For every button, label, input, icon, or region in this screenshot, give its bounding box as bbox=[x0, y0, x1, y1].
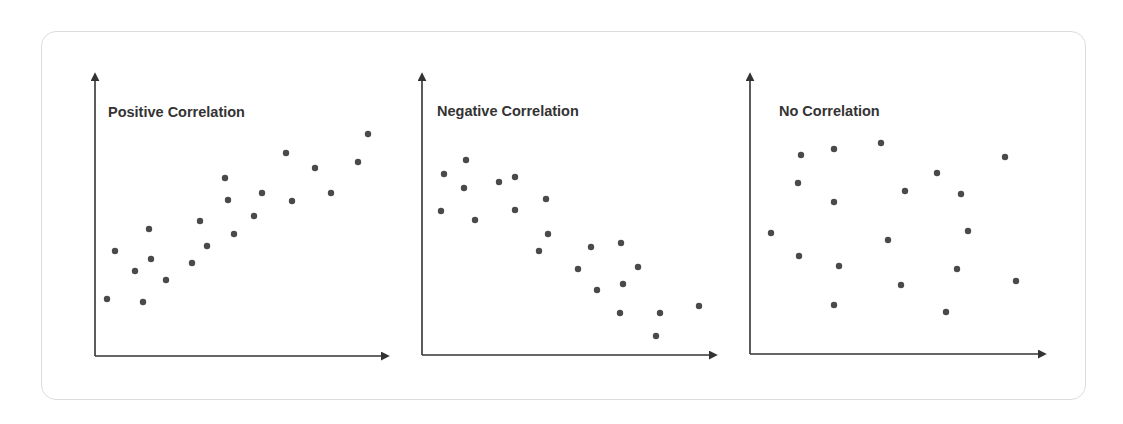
data-point bbox=[132, 268, 138, 274]
data-point bbox=[768, 230, 774, 236]
data-point bbox=[312, 165, 318, 171]
data-point bbox=[197, 218, 203, 224]
data-point bbox=[112, 248, 118, 254]
data-point bbox=[954, 266, 960, 272]
data-point bbox=[328, 190, 334, 196]
data-point bbox=[831, 146, 837, 152]
data-point bbox=[657, 310, 663, 316]
data-points bbox=[104, 131, 371, 305]
data-point bbox=[204, 243, 210, 249]
data-point bbox=[289, 198, 295, 204]
data-point bbox=[140, 299, 146, 305]
data-point bbox=[231, 231, 237, 237]
data-point bbox=[696, 303, 702, 309]
data-point bbox=[441, 171, 447, 177]
panel-negative-correlation: Negative Correlation bbox=[422, 74, 716, 355]
data-point bbox=[620, 281, 626, 287]
data-point bbox=[545, 231, 551, 237]
data-point bbox=[496, 179, 502, 185]
panel-title: Negative Correlation bbox=[437, 103, 579, 119]
data-point bbox=[259, 190, 265, 196]
data-point bbox=[463, 157, 469, 163]
data-point bbox=[965, 228, 971, 234]
data-point bbox=[225, 197, 231, 203]
data-point bbox=[146, 226, 152, 232]
data-point bbox=[472, 217, 478, 223]
data-point bbox=[653, 333, 659, 339]
data-point bbox=[795, 180, 801, 186]
data-point bbox=[461, 185, 467, 191]
data-point bbox=[512, 207, 518, 213]
data-point bbox=[594, 287, 600, 293]
data-point bbox=[355, 159, 361, 165]
data-point bbox=[1002, 154, 1008, 160]
data-points bbox=[768, 140, 1019, 315]
data-point bbox=[163, 277, 169, 283]
data-point bbox=[831, 199, 837, 205]
data-point bbox=[148, 256, 154, 262]
data-point bbox=[617, 310, 623, 316]
data-point bbox=[104, 296, 110, 302]
panel-title: No Correlation bbox=[779, 103, 880, 119]
data-point bbox=[222, 175, 228, 181]
data-point bbox=[512, 174, 518, 180]
data-point bbox=[588, 244, 594, 250]
data-point bbox=[283, 150, 289, 156]
data-point bbox=[618, 240, 624, 246]
data-point bbox=[878, 140, 884, 146]
data-point bbox=[365, 131, 371, 137]
data-points bbox=[438, 157, 702, 339]
data-point bbox=[1013, 278, 1019, 284]
data-point bbox=[902, 188, 908, 194]
data-point bbox=[831, 302, 837, 308]
data-point bbox=[251, 213, 257, 219]
data-point bbox=[885, 237, 891, 243]
data-point bbox=[575, 266, 581, 272]
data-point bbox=[635, 264, 641, 270]
panel-title: Positive Correlation bbox=[108, 104, 245, 120]
data-point bbox=[438, 208, 444, 214]
data-point bbox=[536, 248, 542, 254]
data-point bbox=[798, 152, 804, 158]
data-point bbox=[543, 196, 549, 202]
panel-no-correlation: No Correlation bbox=[750, 74, 1045, 354]
data-point bbox=[189, 260, 195, 266]
data-point bbox=[898, 282, 904, 288]
panel-positive-correlation: Positive Correlation bbox=[95, 74, 388, 356]
data-point bbox=[934, 170, 940, 176]
data-point bbox=[958, 191, 964, 197]
data-point bbox=[943, 309, 949, 315]
data-point bbox=[836, 263, 842, 269]
data-point bbox=[796, 253, 802, 259]
scatter-plots: Positive Correlation Negative Correlatio… bbox=[0, 0, 1123, 424]
